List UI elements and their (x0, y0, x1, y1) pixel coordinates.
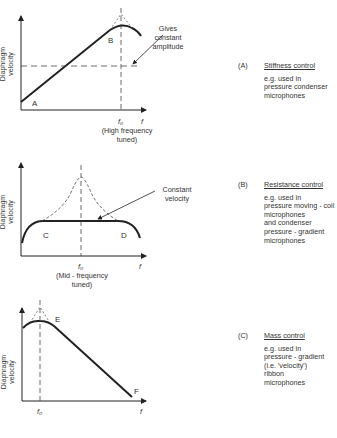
svg-text:(Mid - frequency: (Mid - frequency (56, 271, 108, 280)
svg-text:f₀: f₀ (78, 262, 83, 271)
f0-label: f₀ (118, 117, 123, 126)
point-c: C (43, 231, 49, 240)
svg-text:f₀: f₀ (37, 407, 42, 416)
svg-text:Diaphragm: Diaphragm (0, 355, 8, 389)
svg-text:constant: constant (154, 33, 181, 42)
point-b: B (108, 36, 113, 45)
graph-a-stiffness: Diaphragm velocity A B Gives constant am… (0, 8, 184, 144)
svg-text:velocity: velocity (165, 194, 189, 203)
point-d: D (121, 231, 127, 240)
svg-text:tuned): tuned) (117, 135, 137, 144)
svg-text:Constant: Constant (163, 185, 192, 194)
svg-text:f: f (140, 407, 143, 416)
description-title: Resistance control (264, 181, 323, 190)
description-title: Mass control (264, 332, 305, 341)
description-c: (C)Mass control e.g. used in pressure - … (238, 332, 324, 388)
point-a: A (32, 99, 38, 108)
point-e: E (55, 315, 60, 324)
description-b: (B)Resistance control e.g. used in press… (238, 181, 334, 245)
svg-text:Diaphragm: Diaphragm (0, 195, 7, 229)
point-f: F (134, 387, 139, 396)
svg-text:Gives: Gives (159, 24, 178, 33)
svg-text:(High frequency: (High frequency (102, 126, 153, 135)
svg-text:tuned): tuned) (72, 280, 92, 289)
description-title: Stiffness control (264, 62, 315, 71)
graph-b-resistance: Diaphragm velocity C D Constant velocity… (0, 163, 191, 289)
description-a: (A)Stiffness control e.g. used in pressu… (238, 62, 328, 100)
response-curve (23, 321, 132, 397)
svg-text:f: f (139, 262, 142, 271)
x-axis-label: f (141, 117, 144, 126)
graph-c-mass: Diaphragm velocity E F f₀ f (0, 300, 146, 416)
y-axis-label: Diaphragm (0, 47, 7, 81)
response-curve (21, 25, 141, 102)
svg-text:velocity: velocity (8, 360, 16, 384)
svg-text:velocity: velocity (7, 200, 15, 224)
svg-text:amplitude: amplitude (152, 42, 183, 51)
y-axis-label-2: velocity (7, 52, 15, 76)
